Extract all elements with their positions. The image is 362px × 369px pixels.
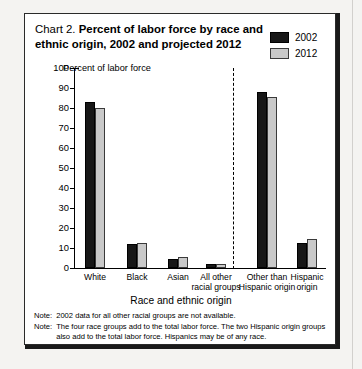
legend-label-2012: 2012: [295, 48, 317, 59]
bar-2012-hispanic-origin: [307, 239, 317, 268]
y-axis-tick: [70, 268, 75, 269]
bar-2012-black: [137, 243, 147, 268]
chart-note-tag: Note:: [34, 322, 52, 342]
page-edge-rule: [352, 0, 353, 369]
legend-label-2002: 2002: [295, 32, 317, 43]
chart-note-text: The four race groups add to the total la…: [56, 322, 330, 342]
y-axis-tick: [70, 108, 75, 109]
chart-legend: 2002 2012: [270, 32, 332, 64]
bar-2012-white: [95, 108, 105, 268]
legend-swatch-2002: [270, 32, 289, 43]
y-axis-tick-label: 70: [45, 122, 69, 133]
legend-item-2012: 2012: [270, 48, 332, 59]
y-axis-tick-label: 90: [45, 82, 69, 93]
y-axis-tick-label: 10: [45, 242, 69, 253]
bar-2012-other-than-hispanic-origin: [267, 97, 277, 268]
bar-2002-all-other-racial-groups: [206, 264, 216, 268]
y-axis-tick-label: 30: [45, 202, 69, 213]
y-axis-tick: [70, 188, 75, 189]
y-axis-tick: [70, 168, 75, 169]
y-axis-tick: [70, 208, 75, 209]
plot-area: Percent of labor force 01020304050607080…: [25, 14, 337, 346]
x-axis-line: [74, 268, 326, 269]
chart-card: Chart 2. Percent of labor force by race …: [24, 13, 336, 345]
y-axis-tick-label: 50: [45, 162, 69, 173]
bar-2012-all-other-racial-groups: [216, 264, 226, 268]
group-divider-dashed-line: [233, 68, 234, 269]
scanned-page: Chart 2. Percent of labor force by race …: [0, 0, 362, 369]
y-axis-tick: [70, 68, 75, 69]
chart-note-1: Note:2002 data for all other racial grou…: [34, 311, 330, 321]
bar-2012-asian: [178, 257, 188, 268]
y-axis-tick: [70, 148, 75, 149]
bar-2002-asian: [168, 259, 178, 268]
y-axis-tick: [70, 228, 75, 229]
y-axis-tick: [70, 248, 75, 249]
y-axis-tick-label: 100: [45, 62, 69, 73]
y-axis-tick-label: 60: [45, 142, 69, 153]
y-axis-tick-label: 80: [45, 102, 69, 113]
legend-item-2002: 2002: [270, 32, 332, 43]
bar-2002-hispanic-origin: [297, 243, 307, 268]
bar-2002-other-than-hispanic-origin: [257, 92, 267, 268]
x-axis-label-hispanic-origin: Hispanicorigin: [269, 272, 345, 292]
y-axis-tick-label: 40: [45, 182, 69, 193]
y-axis-tick-label: 20: [45, 222, 69, 233]
x-axis-title: Race and ethnic origin: [25, 295, 337, 306]
chart-note-text: 2002 data for all other racial groups ar…: [56, 311, 330, 321]
y-axis-tick: [70, 88, 75, 89]
chart-note-2: Note:The four race groups add to the tot…: [34, 322, 330, 342]
chart-notes: Note:2002 data for all other racial grou…: [34, 311, 330, 344]
bar-2002-black: [127, 244, 137, 268]
y-axis-tick: [70, 128, 75, 129]
chart-note-tag: Note:: [34, 311, 52, 321]
legend-swatch-2012: [270, 48, 289, 59]
bar-2002-white: [85, 102, 95, 268]
